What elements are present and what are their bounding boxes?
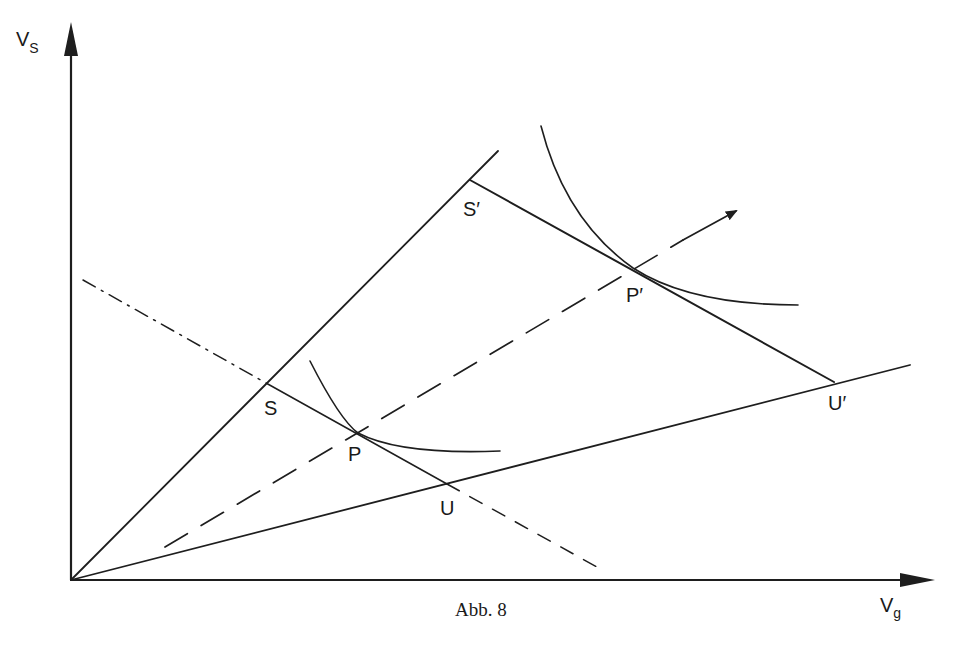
dash-dot-line	[83, 280, 266, 383]
indifference-curve-P	[310, 361, 500, 452]
figure-caption: Abb. 8	[455, 599, 507, 620]
x-axis	[71, 573, 935, 587]
y-axis-arrow-icon	[64, 22, 78, 56]
point-label-U-prime: U′	[828, 392, 846, 414]
x-axis-arrow-icon	[900, 573, 935, 587]
lower-ray	[71, 365, 910, 580]
y-axis	[64, 22, 78, 580]
point-label-S-prime: S′	[463, 198, 480, 220]
y-axis-label: VS	[16, 28, 39, 56]
x-axis-label: Vg	[880, 594, 901, 621]
point-label-P: P	[348, 443, 361, 465]
indifference-curve-P-prime	[541, 126, 798, 305]
dashed-extension	[447, 484, 606, 572]
expansion-path	[165, 240, 683, 547]
expansion-arrow	[683, 211, 736, 240]
upper-ray	[71, 151, 498, 580]
diagram: VS Vg S P U S′ P′ U′ Abb. 8	[0, 0, 961, 645]
point-label-S: S	[264, 397, 277, 419]
budget-line-S-prime-U-prime	[470, 180, 834, 382]
point-label-P-prime: P′	[626, 284, 643, 306]
point-label-U: U	[440, 497, 454, 519]
